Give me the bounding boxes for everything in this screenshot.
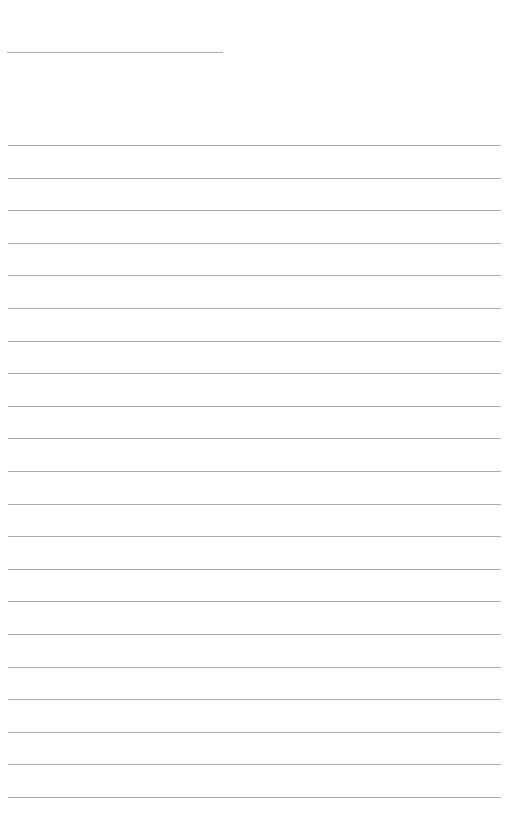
ruled-line [8, 178, 501, 179]
ruled-line [8, 145, 501, 146]
ruled-line [8, 569, 501, 570]
ruled-lines-container [0, 0, 509, 835]
ruled-line [8, 601, 501, 602]
ruled-line [8, 504, 501, 505]
ruled-line [8, 438, 501, 439]
ruled-line [8, 797, 501, 798]
ruled-line [8, 536, 501, 537]
lined-page [0, 0, 509, 835]
ruled-line [8, 308, 501, 309]
ruled-line [8, 699, 501, 700]
ruled-line [8, 634, 501, 635]
ruled-line [8, 667, 501, 668]
ruled-line [8, 406, 501, 407]
ruled-line [8, 764, 501, 765]
ruled-line [8, 471, 501, 472]
ruled-line [8, 732, 501, 733]
ruled-line [8, 210, 501, 211]
ruled-line [8, 275, 501, 276]
ruled-line [8, 373, 501, 374]
ruled-line [8, 341, 501, 342]
ruled-line [8, 243, 501, 244]
